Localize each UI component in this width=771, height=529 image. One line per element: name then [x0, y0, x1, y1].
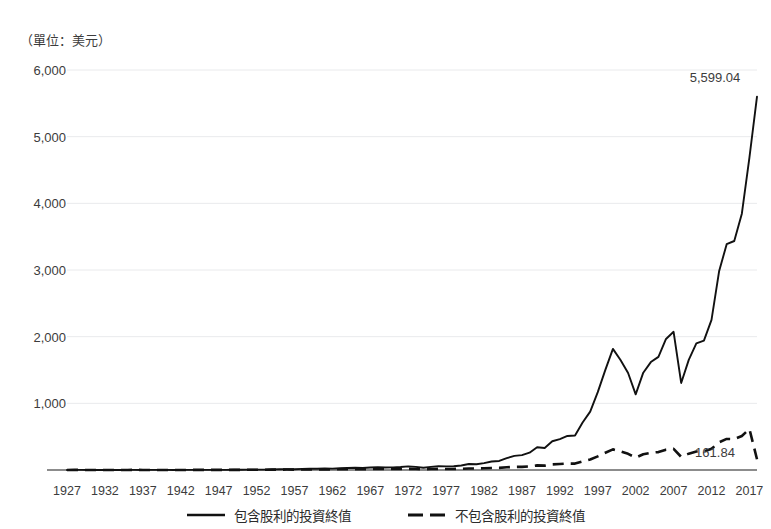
x-axis-tick: 1977: [432, 484, 460, 498]
legend-label-without-dividends: 不包含股利的投資終值: [455, 505, 585, 525]
x-axis-tick: 1992: [546, 484, 574, 498]
x-axis-tick: 2012: [698, 484, 726, 498]
annotation-without-dividends: 161.84: [695, 445, 735, 460]
x-axis-tick: 1972: [394, 484, 422, 498]
solid-line-icon: [186, 509, 226, 521]
x-axis-tick: 1937: [129, 484, 157, 498]
dashed-line-icon: [407, 509, 447, 521]
y-axis-tick: 5,000: [8, 129, 66, 144]
x-axis-tick: 1952: [243, 484, 271, 498]
chart-container: （單位：美元） 6,0005,0004,0003,0002,0001,000 1…: [0, 0, 771, 529]
x-axis-tick: 1947: [205, 484, 233, 498]
x-axis-tick: 2002: [622, 484, 650, 498]
legend-item-without-dividends: 不包含股利的投資終值: [407, 505, 585, 525]
x-axis-tick: 1957: [281, 484, 309, 498]
x-axis-tick: 1932: [91, 484, 119, 498]
gridlines: [67, 70, 757, 403]
legend-label-with-dividends: 包含股利的投資終值: [234, 505, 351, 525]
x-axis-tick: 1997: [584, 484, 612, 498]
legend-item-with-dividends: 包含股利的投資終值: [186, 505, 351, 525]
x-axis-tick: 2017: [736, 484, 764, 498]
y-axis-tick: 1,000: [8, 396, 66, 411]
y-axis-tick: 2,000: [8, 329, 66, 344]
x-axis-tick: 1962: [318, 484, 346, 498]
plot-area: [0, 0, 771, 529]
y-axis-tick: 6,000: [8, 63, 66, 78]
y-axis-tick: 3,000: [8, 263, 66, 278]
chart-legend: 包含股利的投資終值 不包含股利的投資終值: [0, 505, 771, 525]
annotation-with-dividends: 5,599.04: [690, 70, 741, 85]
line-with-dividends: [67, 97, 757, 470]
x-axis-tick: 2007: [660, 484, 688, 498]
y-axis-tick: 4,000: [8, 196, 66, 211]
x-axis-tick: 1927: [53, 484, 81, 498]
x-axis-tick: 1982: [470, 484, 498, 498]
x-axis-tick: 1987: [508, 484, 536, 498]
x-axis-tick: 1967: [356, 484, 384, 498]
x-axis-tick: 1942: [167, 484, 195, 498]
line-without-dividends: [67, 429, 757, 470]
